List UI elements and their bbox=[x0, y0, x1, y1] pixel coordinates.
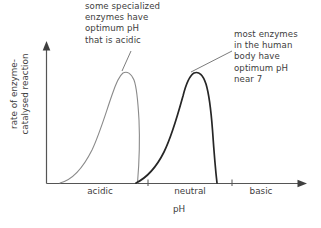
x-axis-label-basic: basic bbox=[233, 186, 289, 196]
annotation-acidic-enzymes: some specialized enzymes have optimum pH… bbox=[85, 1, 197, 46]
y-axis-title: rate of enzyme- catalysed reaction bbox=[9, 32, 33, 156]
x-axis-title: pH bbox=[150, 204, 208, 214]
x-axis-label-neutral: neutral bbox=[158, 186, 222, 196]
annotation-neutral-enzymes: most enzymes in the human body have opti… bbox=[234, 29, 320, 85]
x-axis-label-acidic: acidic bbox=[70, 186, 130, 196]
